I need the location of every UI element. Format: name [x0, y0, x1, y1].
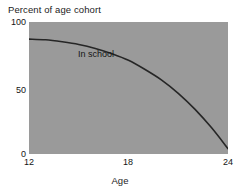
plot-area: In school — [29, 22, 228, 154]
chart-container: Percent of age cohort 100 50 0 In school… — [0, 0, 240, 195]
y-axis-tick-label-100: 100 — [2, 17, 26, 27]
y-axis-title: Percent of age cohort — [8, 4, 101, 15]
series-annotation-in-school: In school — [78, 49, 114, 59]
x-axis-tick-label-12: 12 — [14, 157, 44, 167]
y-axis-tick-label-50: 50 — [2, 85, 26, 95]
x-axis-title: Age — [0, 175, 240, 186]
plot-svg — [29, 22, 228, 154]
x-axis-tick-label-24: 24 — [213, 157, 240, 167]
series-line-in-school — [29, 39, 228, 149]
x-axis-tick-label-18: 18 — [113, 157, 143, 167]
